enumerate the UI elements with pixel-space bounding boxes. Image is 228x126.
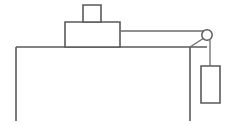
- physics-diagram-canvas: [0, 0, 228, 126]
- stacked-top-block: [83, 5, 101, 22]
- pulley-wheel: [202, 30, 212, 40]
- pulley-support-bracket: [190, 38, 204, 47]
- pulley-system-diagram: [0, 0, 228, 126]
- main-block: [65, 22, 120, 47]
- hanging-weight-block: [201, 66, 220, 103]
